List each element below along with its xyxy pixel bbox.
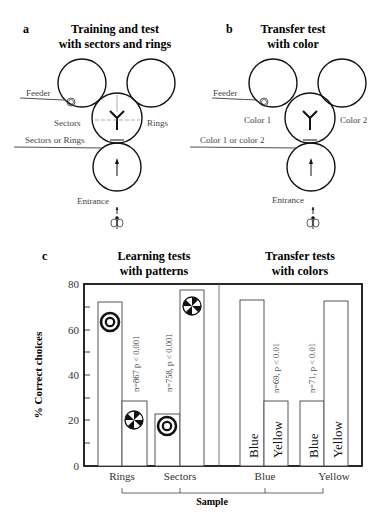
group-right-title-1: Transfer tests xyxy=(265,249,335,263)
svg-text:Blue: Blue xyxy=(246,433,261,458)
svg-text:Yellow: Yellow xyxy=(318,470,349,482)
panel-b-title-2: with color xyxy=(267,37,319,51)
sector-pattern-icon xyxy=(183,297,201,315)
feeder-label-a: Feeder xyxy=(26,88,51,98)
svg-text:40: 40 xyxy=(68,369,80,381)
entrance-label-a: Entrance xyxy=(77,196,109,206)
panel-b-letter: b xyxy=(226,22,233,36)
sample-bracket xyxy=(122,488,323,493)
entrance-label-b: Entrance xyxy=(272,195,304,205)
svg-text:n=867 p < 0.001: n=867 p < 0.001 xyxy=(131,336,141,392)
panel-a: a Training and test with sectors and rin… xyxy=(14,22,175,229)
ring-pattern-icon xyxy=(158,417,176,435)
svg-text:Blue: Blue xyxy=(306,433,321,458)
panel-c-letter: c xyxy=(42,249,48,263)
maze-b xyxy=(249,59,366,191)
sector-pattern-icon xyxy=(125,411,143,429)
entry-stim-label-a: Sectors or Rings xyxy=(25,135,85,145)
svg-text:n=758, p < 0.001: n=758, p < 0.001 xyxy=(164,334,174,392)
svg-text:Blue: Blue xyxy=(255,470,276,482)
svg-text:n=69, p < 0.01: n=69, p < 0.01 xyxy=(271,343,281,393)
svg-text:0: 0 xyxy=(74,460,80,472)
svg-text:Sectors: Sectors xyxy=(164,470,196,482)
feeder-label-b: Feeder xyxy=(213,88,238,98)
svg-text:20: 20 xyxy=(68,414,80,426)
svg-text:Yellow: Yellow xyxy=(270,420,285,458)
bar-sectors-sectors xyxy=(180,290,204,466)
group-left-title-2: with patterns xyxy=(120,264,189,278)
svg-text:n=71, p < 0.01: n=71, p < 0.01 xyxy=(307,343,317,393)
right-stim-label-a: Rings xyxy=(147,118,169,128)
panel-c: c Learning tests with patterns Transfer … xyxy=(32,249,362,507)
svg-text:60: 60 xyxy=(68,324,80,336)
y-axis-label: % Correct choices xyxy=(32,331,44,418)
stat-annotations: n=867 p < 0.001 n=758, p < 0.001 n=69, p… xyxy=(131,334,317,393)
entry-stim-label-b: Color 1 or color 2 xyxy=(200,135,265,145)
left-stim-label-b: Color 1 xyxy=(244,115,271,125)
figure: a Training and test with sectors and rin… xyxy=(0,0,385,523)
panel-a-letter: a xyxy=(23,22,29,36)
panel-b-title-1: Transfer test xyxy=(260,22,325,36)
x-category-labels: Rings Sectors Blue Yellow xyxy=(109,470,350,482)
svg-text:Rings: Rings xyxy=(109,470,135,482)
x-axis-label: Sample xyxy=(196,496,228,507)
left-stim-label-a: Sectors xyxy=(54,118,81,128)
y-tick-labels: 80 60 40 20 0 xyxy=(68,278,80,472)
panel-b: b Transfer test with color Feeder Color … xyxy=(190,22,367,229)
panel-a-title-2: with sectors and rings xyxy=(59,37,172,51)
right-stim-label-b: Color 2 xyxy=(340,115,367,125)
panel-a-title-1: Training and test xyxy=(71,22,159,36)
group-right-title-2: with colors xyxy=(272,264,329,278)
group-left-title-1: Learning tests xyxy=(118,249,191,263)
svg-text:Yellow: Yellow xyxy=(330,420,345,458)
ring-pattern-icon xyxy=(101,313,119,331)
svg-text:80: 80 xyxy=(68,278,80,290)
